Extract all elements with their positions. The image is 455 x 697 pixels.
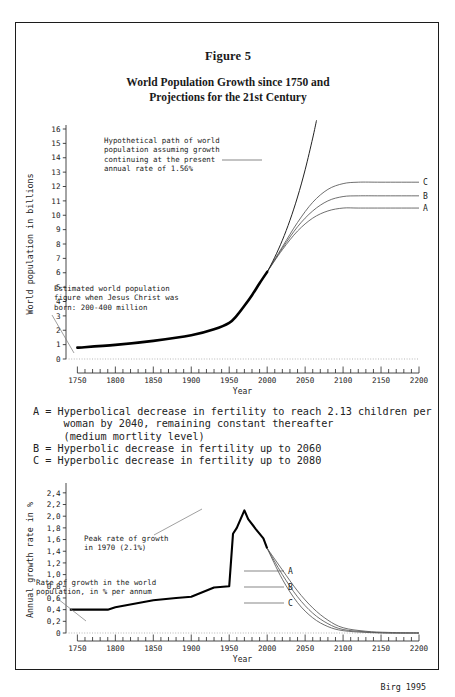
y-tick-label: 0 xyxy=(56,629,61,638)
x-tick-label: 1800 xyxy=(106,644,125,653)
figure-title-line-1: World Population Growth since 1750 and xyxy=(16,75,440,90)
legend-a-line-3: (medium mortlity level) xyxy=(33,431,433,443)
jesus-christ-note-line: born: 200-400 million xyxy=(54,303,147,312)
series-legend: A = Hyperbolical decrease in fertility t… xyxy=(33,406,433,467)
x-tick-label: 1750 xyxy=(68,376,87,385)
legend-a-line-1: A = Hyperbolical decrease in fertility t… xyxy=(33,406,433,418)
x-tick-label: 2000 xyxy=(258,644,277,653)
curve-label-A: A xyxy=(423,204,428,213)
hypothetical-curve xyxy=(260,120,317,283)
population-chart: 012345678910111213141516World population… xyxy=(16,119,440,408)
x-tick-label: 2150 xyxy=(372,644,391,653)
hypothetical-note-line: Hypothetical path of world xyxy=(104,136,220,145)
growth-rate-chart: 00,20,40,60,81,01,21,41,61,82,02,22,4Ann… xyxy=(16,475,440,684)
projection-curve-A xyxy=(267,208,419,272)
y-tick-label: 2 xyxy=(56,326,61,335)
x-tick-label: 1850 xyxy=(144,644,163,653)
jesus-christ-note-line: Estimated world population xyxy=(54,284,170,293)
population-chart-svg: 012345678910111213141516World population… xyxy=(16,119,440,404)
x-tick-label: 2150 xyxy=(372,376,391,385)
peak-note-line: in 1970 (2.1%) xyxy=(84,543,146,552)
x-tick-label: 2200 xyxy=(410,376,429,385)
peak-note-line: Peak rate of growth xyxy=(84,534,169,543)
hypothetical-note-line: annual rate of 1.56% xyxy=(104,164,194,173)
y-tick-label: 2,4 xyxy=(47,489,61,498)
y-tick-label: 1 xyxy=(56,340,61,349)
hypothetical-note-line: population assuming growth xyxy=(104,145,220,154)
x-tick-label: 1900 xyxy=(182,376,201,385)
x-tick-label: 2050 xyxy=(296,376,315,385)
figure-number: Figure 5 xyxy=(16,49,440,64)
x-tick-label: 2000 xyxy=(258,376,277,385)
y-tick-label: 0,4 xyxy=(47,605,61,614)
x-tick-label: 1850 xyxy=(144,376,163,385)
y-tick-label: 10 xyxy=(51,211,61,220)
x-tick-label: 1950 xyxy=(220,376,239,385)
y-tick-label: 16 xyxy=(51,125,61,134)
growth-rate-chart-svg: 00,20,40,60,81,01,21,41,61,82,02,22,4Ann… xyxy=(16,475,440,680)
rate-note-line: population, in % per annum xyxy=(36,587,152,596)
curve-label-C: C xyxy=(288,599,293,608)
legend-b-line: B = Hyperbolic decrease in fertility up … xyxy=(33,443,433,455)
x-tick-label: 2200 xyxy=(410,644,429,653)
x-axis-title: Year xyxy=(233,655,252,664)
figure-frame: Figure 5 World Population Growth since 1… xyxy=(15,22,439,670)
y-axis-title: World population in billions xyxy=(25,173,35,314)
figure-title-line-2: Projections for the 21st Century xyxy=(16,90,440,105)
y-tick-label: 8 xyxy=(56,240,61,249)
y-tick-label: 0,2 xyxy=(47,617,61,626)
x-tick-label: 1750 xyxy=(68,644,87,653)
y-tick-label: 9 xyxy=(56,225,61,234)
peak-leader-line xyxy=(154,509,202,535)
y-tick-label: 1,8 xyxy=(47,524,61,533)
y-tick-label: 13 xyxy=(51,168,60,177)
growth-rate-axes: 00,20,40,60,81,01,21,41,61,82,02,22,4Ann… xyxy=(25,483,429,664)
source-credit: Birg 1995 xyxy=(381,682,426,692)
x-tick-label: 2100 xyxy=(334,644,353,653)
curve-label-B: B xyxy=(423,192,428,201)
y-tick-label: 11 xyxy=(51,197,61,206)
y-tick-label: 15 xyxy=(51,139,60,148)
legend-a-line-2: woman by 2040, remaining constant therea… xyxy=(33,418,433,430)
x-tick-label: 2050 xyxy=(296,644,315,653)
curve-label-A: A xyxy=(288,567,293,576)
y-tick-label: 2,0 xyxy=(47,512,61,521)
y-axis-title: Annual growth rate in % xyxy=(25,502,35,618)
growth-rate-annotations: Peak rate of growthin 1970 (2.1%)Rate of… xyxy=(36,509,202,621)
jesus-christ-note-line: figure when Jesus Christ was xyxy=(54,293,179,302)
figure-page: Figure 5 World Population Growth since 1… xyxy=(0,0,455,697)
hypothetical-note-line: continuing at the present xyxy=(104,155,215,164)
x-tick-label: 2100 xyxy=(334,376,353,385)
y-tick-label: 2,2 xyxy=(47,500,61,509)
y-tick-label: 1,2 xyxy=(47,559,61,568)
y-tick-label: 7 xyxy=(56,254,61,263)
curve-label-B: B xyxy=(288,583,293,592)
x-tick-label: 1800 xyxy=(106,376,125,385)
y-tick-label: 3 xyxy=(56,312,61,321)
legend-c-line: C = Hyperbolic decrease in fertility up … xyxy=(33,455,433,467)
y-tick-label: 1,6 xyxy=(47,535,61,544)
rate-note-line: Rate of growth in the world xyxy=(36,578,156,587)
population-axes: 012345678910111213141516World population… xyxy=(25,125,429,396)
curve-label-C: C xyxy=(423,178,428,187)
growth-rate-curves: ABC xyxy=(70,510,419,633)
y-tick-label: 1,4 xyxy=(47,547,61,556)
x-tick-label: 1900 xyxy=(182,644,201,653)
x-tick-label: 1950 xyxy=(220,644,239,653)
y-tick-label: 6 xyxy=(56,268,61,277)
y-tick-label: 0 xyxy=(56,355,61,364)
y-tick-label: 12 xyxy=(51,182,60,191)
y-tick-label: 14 xyxy=(51,153,61,162)
x-axis-title: Year xyxy=(233,387,252,396)
figure-title: World Population Growth since 1750 and P… xyxy=(16,75,440,105)
